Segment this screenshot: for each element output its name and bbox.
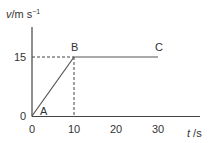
y-axis-label: v/m s−1 bbox=[6, 8, 40, 20]
x-axis-label: t /s bbox=[187, 128, 202, 139]
x-tick-20: 20 bbox=[110, 124, 122, 135]
x-tick-10: 10 bbox=[68, 124, 80, 135]
point-label-b: B bbox=[71, 42, 78, 53]
x-axis-unit: /s bbox=[190, 127, 202, 139]
y-tick-15: 15 bbox=[14, 52, 26, 63]
y-axis-unit: /m s bbox=[12, 8, 33, 20]
point-label-c: C bbox=[155, 42, 163, 53]
y-tick-0: 0 bbox=[20, 111, 26, 122]
velocity-time-plot bbox=[0, 0, 219, 143]
x-tick-30: 30 bbox=[152, 124, 164, 135]
x-tick-0: 0 bbox=[29, 124, 35, 135]
data-line bbox=[32, 57, 158, 116]
y-axis-exp: −1 bbox=[32, 8, 40, 15]
point-label-a: A bbox=[40, 106, 47, 117]
